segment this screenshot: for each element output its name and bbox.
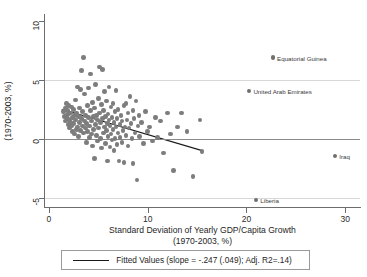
scatter-point xyxy=(191,174,196,179)
gridline-y xyxy=(45,198,360,199)
x-axis-tick xyxy=(49,208,50,213)
scatter-point xyxy=(141,141,146,146)
scatter-point xyxy=(79,68,84,73)
zero-reference-line xyxy=(45,139,360,140)
scatter-point xyxy=(88,72,93,77)
scatter-point xyxy=(89,132,94,137)
legend-line-key xyxy=(73,260,109,261)
y-axis-tick-label: 0 xyxy=(31,139,41,144)
scatter-point xyxy=(92,156,97,161)
scatter-point xyxy=(93,82,98,87)
x-axis-title-line2: (1970-2003, %) xyxy=(45,236,360,247)
scatter-point xyxy=(124,101,129,106)
scatter-point xyxy=(99,102,104,107)
scatter-point xyxy=(76,134,81,139)
x-axis-tick-label: 0 xyxy=(47,214,52,224)
y-axis-title-text: (1970-2003, %) xyxy=(3,81,13,140)
scatter-point xyxy=(165,111,170,116)
scatter-point xyxy=(161,151,166,156)
scatter-point xyxy=(99,146,104,151)
scatter-point xyxy=(96,96,101,101)
scatter-point xyxy=(137,113,142,118)
scatter-point xyxy=(143,109,148,114)
point-label-equatorial-guinea: Equatorial Guinea xyxy=(277,54,327,61)
scatter-point xyxy=(78,87,83,92)
scatter-point xyxy=(103,141,108,146)
scatter-point xyxy=(116,107,121,112)
scatter-point xyxy=(145,129,150,134)
legend-label: Fitted Values (slope = -.247 (.049); Adj… xyxy=(109,255,309,265)
x-axis-tick xyxy=(345,208,346,213)
y-axis-title: (1970-2003, %) xyxy=(2,14,14,207)
y-axis-tick-label: 10 xyxy=(31,21,41,30)
scatter-point xyxy=(132,116,137,121)
scatter-point xyxy=(104,99,109,104)
plot-area: Equatorial GuineaUnited Arab EmiratesIra… xyxy=(45,14,360,207)
scatter-point xyxy=(91,127,96,132)
x-axis-tick-label: 30 xyxy=(340,214,349,224)
x-axis-tick-label: 20 xyxy=(242,214,251,224)
scatter-point xyxy=(137,134,142,139)
legend: Fitted Values (slope = -.247 (.049); Adj… xyxy=(61,250,310,270)
scatter-point xyxy=(98,136,103,141)
scatter-point xyxy=(92,106,97,111)
scatter-point xyxy=(105,159,110,164)
scatter-point xyxy=(90,144,95,149)
x-axis-tick xyxy=(246,208,247,213)
scatter-point xyxy=(122,160,127,165)
scatter-point xyxy=(100,67,105,72)
x-axis-tick-label: 10 xyxy=(143,214,152,224)
scatter-plot-figure: (1970-2003, %) Equatorial GuineaUnited A… xyxy=(0,0,367,277)
y-axis-tick-label: 5 xyxy=(31,80,41,85)
scatter-point xyxy=(124,133,129,138)
x-axis-title-line1: Standard Deviation of Yearly GDP/Capita … xyxy=(45,225,360,236)
gridline-y xyxy=(45,80,360,81)
scatter-point xyxy=(101,108,106,113)
scatter-point xyxy=(155,135,160,140)
scatter-point xyxy=(175,125,180,130)
scatter-point xyxy=(96,126,101,131)
x-axis-tick xyxy=(148,208,149,213)
scatter-point xyxy=(139,120,144,125)
x-axis-title: Standard Deviation of Yearly GDP/Capita … xyxy=(45,225,360,246)
scatter-point xyxy=(129,121,134,126)
scatter-point xyxy=(81,55,86,60)
scatter-point xyxy=(84,140,89,145)
scatter-point xyxy=(119,113,124,118)
scatter-point xyxy=(73,98,78,103)
scatter-point xyxy=(82,92,87,97)
scatter-point xyxy=(102,89,107,94)
point-label-liberia: Liberia xyxy=(260,196,279,203)
scatter-point xyxy=(104,128,109,133)
scatter-point-labeled xyxy=(271,55,275,59)
scatter-point xyxy=(131,108,136,113)
scatter-point xyxy=(130,136,135,141)
scatter-point xyxy=(153,115,158,120)
x-axis-spine xyxy=(44,207,361,208)
scatter-point xyxy=(179,111,184,116)
scatter-point xyxy=(90,100,95,105)
scatter-point xyxy=(120,140,125,145)
point-label-united-arab-emirates: United Arab Emirates xyxy=(253,88,311,95)
scatter-point xyxy=(128,94,133,99)
scatter-point xyxy=(168,132,173,137)
scatter-point xyxy=(131,161,136,166)
point-label-iraq: Iraq xyxy=(339,153,350,160)
y-axis-tick-label: -5 xyxy=(31,198,41,206)
scatter-point xyxy=(171,168,176,173)
